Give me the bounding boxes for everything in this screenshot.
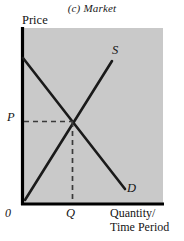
demand-curve-label: D: [127, 182, 136, 195]
x-axis-label-line2: Time Period: [110, 220, 169, 234]
origin-label: 0: [5, 207, 11, 220]
plot-background: [22, 28, 163, 204]
market-supply-demand-figure: (c) Market Price P 0 Q Quantity/ Time Pe…: [0, 0, 184, 241]
plot-canvas: [0, 0, 184, 241]
equilibrium-price-label: P: [7, 111, 15, 124]
supply-curve-label: S: [112, 44, 118, 57]
x-axis-label: Quantity/ Time Period: [110, 206, 169, 234]
x-axis-label-line1: Quantity/: [110, 206, 169, 220]
y-axis-label: Price: [22, 14, 48, 27]
equilibrium-quantity-label: Q: [66, 207, 75, 220]
